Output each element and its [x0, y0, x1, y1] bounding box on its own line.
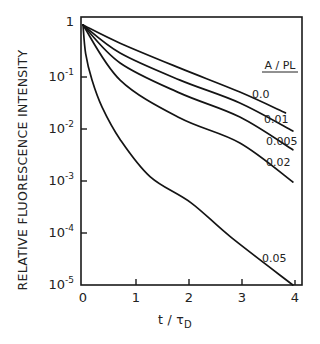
x-tick-label: 3	[238, 290, 246, 305]
decay-curves	[83, 25, 293, 285]
y-tick-label: 10-2	[48, 119, 74, 136]
y-tick-label: 10-5	[48, 275, 74, 292]
decay-curve-0.05	[83, 25, 293, 285]
y-tick-label: 10-1	[48, 67, 74, 84]
x-axis-title: t / τD	[158, 312, 192, 330]
y-tick-label: 1	[66, 14, 74, 29]
x-axis-ticks: 01234	[79, 279, 299, 305]
series-label: 0.02	[266, 156, 291, 169]
legend-title: A / PL	[265, 59, 297, 72]
series-label: 0.005	[266, 135, 298, 148]
decay-curve-0.02	[83, 25, 293, 182]
series-label: 0.0	[252, 88, 270, 101]
x-tick-label: 1	[132, 290, 140, 305]
x-tick-label: 2	[185, 290, 193, 305]
series-label: 0.05	[262, 252, 287, 265]
series-label: 0.01	[264, 113, 289, 126]
legend: A / PL	[262, 59, 298, 72]
fluorescence-decay-chart: 01234 110-110-210-310-410-5 0.00.010.005…	[0, 0, 320, 344]
y-tick-label: 10-3	[48, 171, 74, 188]
x-tick-label: 4	[291, 290, 299, 305]
x-tick-label: 0	[79, 290, 87, 305]
series-labels: 0.00.010.0050.020.05	[252, 88, 298, 265]
y-axis-title: RELATIVE FLUORESCENCE INTENSITY	[15, 49, 30, 290]
y-tick-label: 10-4	[48, 223, 74, 240]
